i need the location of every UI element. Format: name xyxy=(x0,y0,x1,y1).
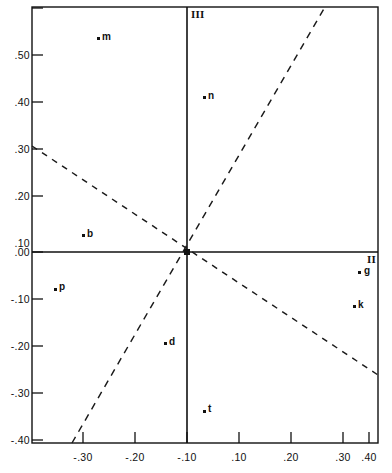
annotation-label-iii: III xyxy=(191,9,204,20)
data-point-label-k: k xyxy=(358,300,364,310)
x-tick-label-020: .20 xyxy=(273,452,309,463)
x-tick-label-neg020: -.20 xyxy=(115,452,155,463)
origin-marker xyxy=(184,249,190,255)
data-point-label-g: g xyxy=(364,266,370,276)
plot-frame xyxy=(32,7,378,443)
y-tick-label-neg040: -.40 xyxy=(0,435,30,446)
data-point-label-m: m xyxy=(102,32,111,42)
plot-canvas xyxy=(0,0,392,473)
x-tick-label-040: .40 xyxy=(351,452,387,463)
y-tick-label-020: .20 xyxy=(0,191,30,202)
reference-line-ii xyxy=(32,146,378,375)
x-tick-label-neg010: -.10 xyxy=(167,452,207,463)
data-point-dot-g xyxy=(358,271,361,274)
y-tick-label-000: .00 xyxy=(0,247,30,258)
data-point-dot-d xyxy=(164,342,167,345)
y-axis-ticks xyxy=(32,8,43,440)
data-point-label-n: n xyxy=(208,91,214,101)
data-point-dot-t xyxy=(203,410,206,413)
data-point-label-b: b xyxy=(87,229,93,239)
data-point-dot-n xyxy=(203,96,206,99)
y-tick-label-050: .50 xyxy=(0,50,30,61)
data-point-label-t: t xyxy=(208,404,211,414)
y-tick-label-neg030: -.30 xyxy=(0,388,30,399)
y-tick-label-neg020: -.20 xyxy=(0,341,30,352)
annotation-label-ii: II xyxy=(367,254,376,265)
data-point-dot-p xyxy=(54,288,57,291)
data-point-label-p: p xyxy=(59,282,65,292)
y-tick-label-040: .40 xyxy=(0,97,30,108)
reference-line-iii xyxy=(72,7,325,443)
data-point-label-d: d xyxy=(169,337,175,347)
data-point-dot-k xyxy=(353,305,356,308)
y-tick-label-neg010: -.10 xyxy=(0,294,30,305)
x-tick-label-010: .10 xyxy=(221,452,257,463)
x-axis-ticks xyxy=(83,432,369,443)
scatter-plot-figure: .50 .40 .30 .20 .10 .00 -.10 -.20 -.30 -… xyxy=(0,0,392,473)
y-tick-label-030: .30 xyxy=(0,144,30,155)
data-point-dot-b xyxy=(82,234,85,237)
data-point-dot-m xyxy=(97,37,100,40)
x-tick-label-neg030: -.30 xyxy=(63,452,103,463)
